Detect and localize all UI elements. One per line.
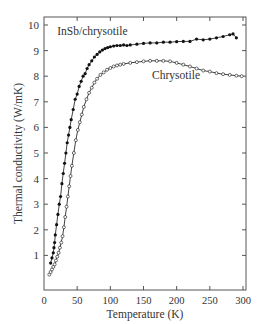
data-point-open (85, 98, 88, 101)
data-point-filled (112, 44, 115, 47)
data-point-open (54, 259, 57, 262)
data-point-filled (122, 43, 125, 46)
y-tick-label: 2 (34, 224, 40, 236)
data-point-filled (202, 38, 205, 41)
data-point-filled (149, 41, 152, 44)
y-axis-title: Thermal conductivity (W/mK) (12, 83, 25, 224)
data-point-filled (59, 195, 62, 198)
data-point-open (90, 86, 93, 89)
data-point-open (72, 152, 75, 155)
data-point-open (119, 63, 122, 66)
data-point-filled (125, 44, 128, 47)
data-point-filled (50, 256, 53, 259)
data-point-filled (86, 67, 89, 70)
data-point-filled (72, 108, 75, 111)
data-point-filled (52, 246, 55, 249)
data-series (48, 32, 243, 276)
data-point-filled (90, 59, 93, 62)
data-point-open (228, 73, 231, 76)
y-tick-label: 1 (34, 249, 40, 261)
data-point-open (142, 60, 145, 63)
x-tick-label: 100 (102, 295, 118, 306)
data-point-filled (88, 63, 91, 66)
data-point-filled (109, 45, 112, 48)
y-tick-label: 9 (34, 45, 40, 57)
data-point-filled (62, 172, 65, 175)
y-tick-label: 7 (34, 96, 40, 108)
data-point-open (208, 70, 211, 73)
data-point-open (69, 175, 72, 178)
data-point-open (74, 139, 77, 142)
data-point-open (96, 77, 99, 80)
data-point-filled (52, 251, 55, 254)
x-axis-title: Temperature (K) (107, 308, 184, 321)
data-point-open (82, 105, 85, 108)
data-point-open (129, 61, 132, 64)
annotation-insb-chrysotile: InSb/chrysotile (57, 25, 127, 38)
data-point-open (57, 251, 60, 254)
data-point-filled (78, 85, 81, 88)
x-tick-label: 150 (136, 295, 152, 306)
series-insb-chrysotile (49, 32, 238, 264)
data-point-open (68, 185, 71, 188)
data-point-open (235, 74, 238, 77)
y-tick-label: 3 (34, 198, 40, 210)
data-point-open (58, 246, 61, 249)
data-point-filled (175, 40, 178, 43)
y-tick-label: 6 (34, 121, 40, 133)
data-point-filled (222, 35, 225, 38)
data-point-filled (231, 32, 234, 35)
data-point-open (240, 75, 243, 78)
series-chrysotile (48, 59, 243, 276)
data-point-filled (95, 53, 98, 56)
data-point-filled (215, 36, 218, 39)
data-point-open (56, 255, 59, 258)
data-point-filled (74, 98, 77, 101)
data-point-filled (162, 41, 165, 44)
data-point-filled (119, 44, 122, 47)
data-point-open (60, 241, 63, 244)
data-point-open (80, 113, 83, 116)
data-point-filled (55, 223, 58, 226)
data-point-filled (60, 182, 63, 185)
data-point-filled (68, 126, 71, 129)
data-point-open (88, 91, 91, 94)
data-point-open (53, 263, 56, 266)
y-tick-label: 4 (34, 173, 40, 185)
series-line (51, 34, 237, 263)
data-point-open (222, 73, 225, 76)
data-point-open (76, 128, 79, 131)
data-point-filled (58, 203, 61, 206)
data-point-open (155, 59, 158, 62)
data-point-open (62, 226, 65, 229)
data-point-filled (235, 36, 238, 39)
data-point-filled (182, 40, 185, 43)
data-point-filled (115, 44, 118, 47)
data-point-open (115, 64, 118, 67)
data-point-filled (64, 151, 67, 154)
data-point-filled (67, 133, 70, 136)
data-point-filled (155, 41, 158, 44)
data-point-open (93, 81, 96, 84)
data-point-open (106, 68, 109, 71)
data-point-filled (53, 241, 56, 244)
data-point-open (149, 59, 152, 62)
data-point-open (122, 62, 125, 65)
data-point-open (169, 60, 172, 63)
data-point-open (65, 205, 68, 208)
x-tick-label: 0 (41, 295, 46, 306)
data-point-filled (49, 261, 52, 264)
data-point-filled (135, 43, 138, 46)
data-point-open (109, 67, 112, 70)
data-point-filled (56, 213, 59, 216)
data-point-filled (63, 162, 66, 165)
thermal-conductivity-chart: 12345678910050100150200250300 InSb/chrys… (0, 0, 258, 324)
data-point-open (162, 59, 165, 62)
data-point-open (61, 235, 64, 238)
y-tick-label: 5 (34, 147, 40, 159)
data-point-filled (66, 141, 69, 144)
data-point-filled (208, 37, 211, 40)
data-point-filled (98, 50, 101, 53)
data-point-filled (70, 118, 73, 121)
data-point-open (188, 65, 191, 68)
